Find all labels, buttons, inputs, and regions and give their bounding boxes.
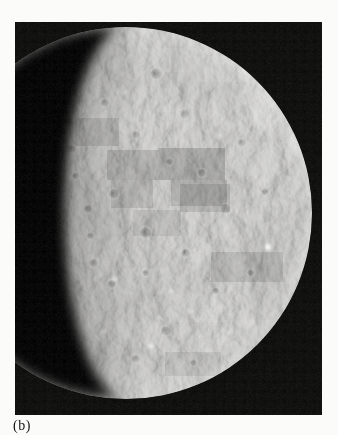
film-grain-overlay [15,22,322,415]
page: (b) [0,0,338,435]
mercury-photomosaic-image [15,22,322,415]
figure-caption-label: (b) [13,417,31,434]
figure-photo-frame [15,22,322,415]
